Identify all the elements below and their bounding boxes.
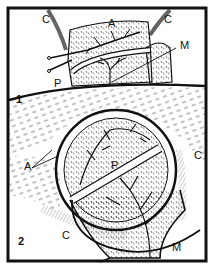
label-capsule-bottom-2: C: [62, 230, 70, 241]
label-capsule-right: C: [164, 14, 172, 25]
label-capsule-right-2: C: [194, 150, 202, 161]
label-artery-a-2: A: [24, 161, 31, 172]
label-metaphysis-m-2: M: [172, 242, 181, 253]
label-metaphysis-m: M: [180, 40, 189, 51]
panel-number-2: 2: [18, 236, 24, 247]
label-physis-p-2: P: [111, 160, 118, 171]
label-perichondrium-p: P: [54, 78, 61, 89]
panel-number-1: 1: [16, 94, 22, 105]
label-capsule-left: C: [42, 14, 50, 25]
label-artery-a: A: [108, 18, 115, 29]
